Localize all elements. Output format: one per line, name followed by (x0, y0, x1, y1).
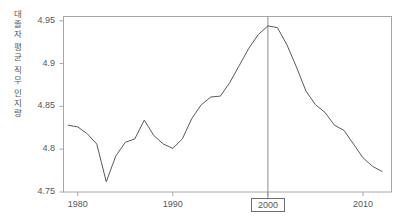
data-series-line (68, 26, 382, 182)
chart-container: 대 졸 자 평 균 직 무 인 지 량 4.95 4.9 4.85 4.8 4.… (0, 0, 413, 224)
x-axis-ticks (78, 192, 363, 196)
chart-plot-svg (0, 0, 413, 224)
y-axis-ticks (60, 21, 64, 192)
